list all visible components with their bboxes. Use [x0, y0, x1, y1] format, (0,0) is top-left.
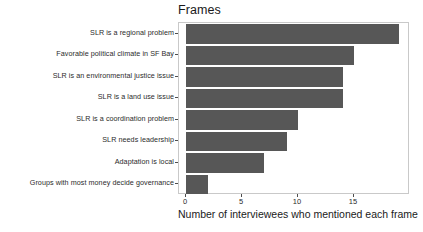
- y-axis-tick: [175, 76, 178, 77]
- bar[interactable]: [186, 132, 287, 152]
- bar-row: [179, 174, 408, 196]
- y-axis-tick: [175, 33, 178, 34]
- bar-row: [179, 152, 408, 174]
- x-axis-tick-label: 5: [239, 197, 243, 206]
- clipped-caption: [8, 225, 308, 232]
- y-axis-label: SLR is an environmental justice issue: [53, 72, 174, 80]
- y-axis-tick: [175, 183, 178, 184]
- y-axis-label: Favorable political climate in SF Bay: [56, 50, 174, 58]
- bar[interactable]: [186, 89, 343, 109]
- bars-layer: [179, 23, 408, 193]
- bar-row: [179, 109, 408, 131]
- x-axis-title: Number of interviewees who mentioned eac…: [178, 208, 409, 221]
- bar-row: [179, 131, 408, 153]
- bar[interactable]: [186, 153, 264, 173]
- y-axis-tick: [175, 140, 178, 141]
- bar[interactable]: [186, 67, 343, 87]
- y-axis-label: SLR is a land use issue: [98, 93, 174, 101]
- y-axis-tick: [175, 119, 178, 120]
- chart-title: Frames: [178, 3, 221, 18]
- y-axis-label: Adaptation is local: [115, 158, 174, 166]
- y-axis-tick: [175, 97, 178, 98]
- y-axis-label: Groups with most money decide governance: [30, 179, 174, 187]
- bar-row: [179, 88, 408, 110]
- bar[interactable]: [186, 24, 399, 44]
- bar-row: [179, 66, 408, 88]
- x-axis-tick-label: 0: [183, 197, 187, 206]
- y-axis-label: SLR is a coordination problem: [76, 115, 174, 123]
- plot-panel: [178, 22, 409, 194]
- y-axis-tick: [175, 162, 178, 163]
- bar[interactable]: [186, 175, 208, 195]
- y-axis-label: SLR is a regional problem: [90, 29, 174, 37]
- bar-row: [179, 23, 408, 45]
- y-axis-label: SLR needs leadership: [102, 136, 174, 144]
- bar-row: [179, 45, 408, 67]
- bar[interactable]: [186, 46, 354, 66]
- bar-chart: Frames SLR is a regional problemFavorabl…: [0, 0, 423, 232]
- x-axis-tick-label: 10: [293, 197, 301, 206]
- bar[interactable]: [186, 110, 298, 130]
- x-axis-tick-label: 15: [349, 197, 357, 206]
- y-axis-tick: [175, 54, 178, 55]
